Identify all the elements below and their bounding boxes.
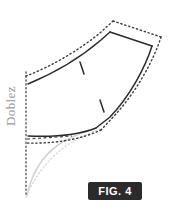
figure-container: Doblez FIG. 4 <box>0 0 180 213</box>
figure-caption-badge: FIG. 4 <box>88 182 142 200</box>
figure-caption-text: FIG. 4 <box>98 186 132 197</box>
